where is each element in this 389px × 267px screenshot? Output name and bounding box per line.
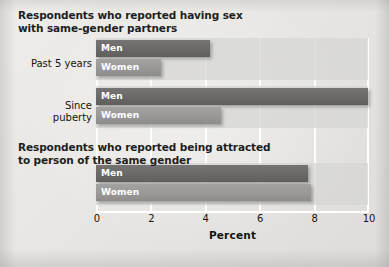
x-tick-10 [367, 206, 369, 212]
bar-group-attraction: Men Women [96, 163, 368, 205]
panel-title-sex: Respondents who reported having sex with… [18, 9, 243, 34]
x-tick-4 [205, 206, 207, 212]
panel-title-attraction: Respondents who reported being attracted… [18, 141, 270, 166]
bar-attracted-men[interactable]: Men [96, 165, 308, 182]
bar-puberty-men[interactable]: Men [96, 88, 368, 105]
bar-puberty-women[interactable]: Women [96, 107, 221, 124]
plot-area: Men Women Men Women Men Women [96, 38, 368, 211]
x-tick-label-10: 10 [363, 213, 376, 224]
bar-group-since-puberty: Men Women [96, 86, 368, 128]
bar-group-past-5-years: Men Women [96, 38, 368, 80]
x-tick-label-2: 2 [148, 213, 154, 224]
bar-label-women: Women [101, 63, 139, 72]
x-tick-2 [150, 206, 152, 212]
x-tick-label-4: 4 [203, 213, 209, 224]
x-axis-label: Percent [96, 229, 369, 241]
bar-label-men: Men [101, 44, 123, 53]
x-tick-8 [314, 206, 316, 212]
x-tick-0 [96, 206, 98, 212]
x-axis-line [96, 211, 369, 213]
x-tick-label-6: 6 [257, 213, 263, 224]
bar-label-men: Men [101, 92, 123, 101]
bar-past5-men[interactable]: Men [96, 40, 210, 57]
category-label-past-5-years: Past 5 years [31, 58, 92, 70]
bar-past5-women[interactable]: Women [96, 59, 161, 76]
category-label-since-puberty: Since puberty [53, 100, 92, 123]
bar-label-women: Women [101, 188, 139, 197]
bar-label-men: Men [101, 169, 123, 178]
x-tick-label-0: 0 [94, 213, 100, 224]
x-tick-6 [259, 206, 261, 212]
bar-label-women: Women [101, 111, 139, 120]
x-tick-label-8: 8 [311, 213, 317, 224]
bar-attracted-women[interactable]: Women [96, 184, 311, 201]
chart-figure: Respondents who reported having sex with… [0, 0, 389, 267]
